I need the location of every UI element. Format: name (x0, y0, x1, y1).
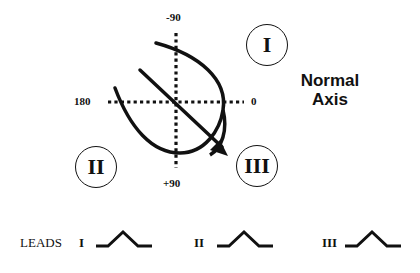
axis-label-bottom: +90 (163, 178, 180, 189)
leads-label: LEADS (20, 235, 62, 251)
lead-circle-ii: II (75, 146, 117, 188)
lead-ii-waveform (217, 232, 273, 246)
lead-iii-waveform (345, 232, 401, 246)
lead-i-waveform (96, 232, 152, 246)
lead-name-iii: III (322, 235, 337, 251)
title-line-1: Normal (296, 71, 364, 90)
lead-name-i: I (79, 235, 84, 251)
axis-arrow-shaft (140, 70, 222, 147)
lead-circle-i: I (246, 24, 288, 66)
lead-circle-iii: III (236, 145, 278, 187)
axis-label-top: -90 (166, 12, 181, 23)
title-line-2: Axis (296, 90, 364, 109)
axis-label-right: 0 (251, 96, 257, 107)
diagram-title: Normal Axis (296, 71, 364, 109)
lead-name-ii: II (194, 235, 204, 251)
axis-label-left: 180 (74, 96, 91, 107)
axis-diagram (0, 0, 420, 273)
